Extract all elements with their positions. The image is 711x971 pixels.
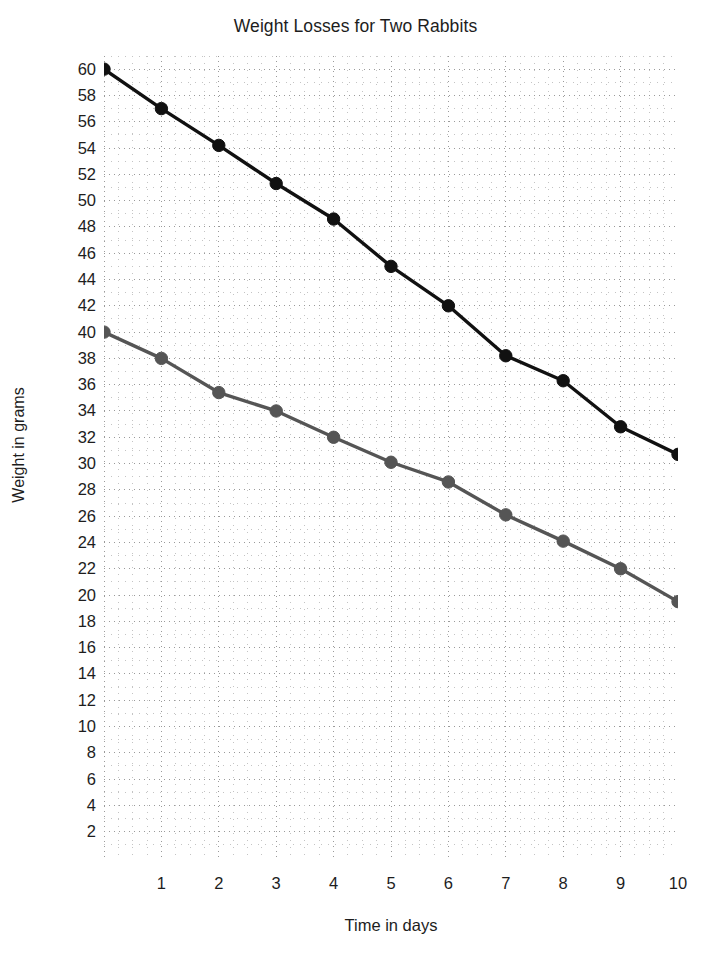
- y-tick-label: 4: [54, 797, 96, 814]
- x-axis-tick-labels: 12345678910: [104, 875, 678, 899]
- x-tick-label: 8: [543, 875, 583, 892]
- y-tick-label: 32: [54, 429, 96, 446]
- y-tick-label: 12: [54, 692, 96, 709]
- y-tick-label: 2: [54, 823, 96, 840]
- y-tick-label: 24: [54, 534, 96, 551]
- y-tick-label: 26: [54, 508, 96, 525]
- y-tick-label: 8: [54, 744, 96, 761]
- chart-page: Weight Losses for Two Rabbits Weight in …: [0, 0, 711, 971]
- x-tick-label: 2: [199, 875, 239, 892]
- plot-area: [104, 56, 678, 858]
- y-tick-label: 40: [54, 324, 96, 341]
- y-tick-label: 30: [54, 455, 96, 472]
- y-tick-label: 28: [54, 481, 96, 498]
- y-tick-label: 34: [54, 402, 96, 419]
- y-tick-label: 48: [54, 218, 96, 235]
- x-tick-label: 6: [428, 875, 468, 892]
- x-tick-label: 1: [141, 875, 181, 892]
- y-axis-label: Weight in grams: [10, 360, 28, 530]
- y-tick-label: 56: [54, 113, 96, 130]
- x-tick-label: 4: [314, 875, 354, 892]
- y-tick-label: 14: [54, 665, 96, 682]
- y-tick-label: 42: [54, 297, 96, 314]
- y-tick-label: 20: [54, 587, 96, 604]
- y-tick-label: 6: [54, 771, 96, 788]
- y-tick-label: 36: [54, 376, 96, 393]
- y-tick-label: 50: [54, 192, 96, 209]
- y-tick-label: 58: [54, 87, 96, 104]
- y-tick-label: 52: [54, 166, 96, 183]
- data-series-layer: [104, 56, 678, 858]
- y-tick-label: 16: [54, 639, 96, 656]
- x-tick-label: 3: [256, 875, 296, 892]
- y-tick-label: 22: [54, 560, 96, 577]
- x-tick-label: 5: [371, 875, 411, 892]
- y-tick-label: 38: [54, 350, 96, 367]
- x-tick-label: 10: [658, 875, 698, 892]
- y-tick-label: 54: [54, 140, 96, 157]
- chart-title: Weight Losses for Two Rabbits: [0, 16, 711, 37]
- x-tick-label: 9: [601, 875, 641, 892]
- y-axis-tick-labels: 6058565452504846444240383634323028262422…: [48, 56, 96, 858]
- y-tick-label: 46: [54, 245, 96, 262]
- y-tick-label: 18: [54, 613, 96, 630]
- y-tick-label: 60: [54, 61, 96, 78]
- y-tick-label: 10: [54, 718, 96, 735]
- y-tick-label: 44: [54, 271, 96, 288]
- x-tick-label: 7: [486, 875, 526, 892]
- x-axis-label: Time in days: [104, 916, 678, 935]
